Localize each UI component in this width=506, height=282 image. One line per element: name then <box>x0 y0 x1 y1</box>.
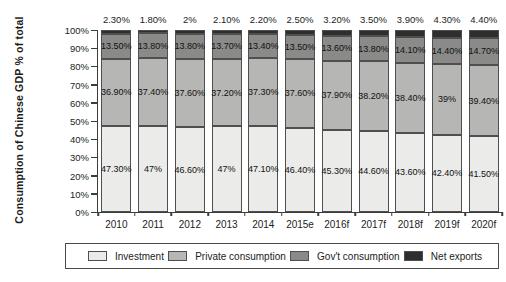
x-axis-label: 2012 <box>179 219 201 230</box>
bar-segment-private-consumption: 37.60% <box>175 59 205 127</box>
bar-segment-investment: 43.60% <box>395 133 425 212</box>
bar-segment-gov-t-consumption: 13.50% <box>285 35 315 60</box>
x-tick <box>354 212 356 216</box>
segment-label: 13.80% <box>138 41 169 51</box>
bar-segment-net-exports <box>359 30 389 36</box>
bar: 47%37.40%13.80%1.80% <box>138 30 168 212</box>
y-tick <box>91 66 97 68</box>
y-tick <box>91 84 97 86</box>
segment-label: 37.30% <box>248 87 279 97</box>
bar-segment-investment: 42.40% <box>432 135 462 212</box>
x-axis-label: 2010 <box>105 219 127 230</box>
segment-label: 37.90% <box>322 90 353 100</box>
y-tick <box>91 139 97 141</box>
net-exports-label: 2.10% <box>213 14 240 25</box>
segment-label: 14.70% <box>468 46 499 56</box>
bar-segment-private-consumption: 37.30% <box>248 58 278 126</box>
y-tick-label: 80% <box>70 61 89 72</box>
bar-segment-private-consumption: 39% <box>432 64 462 135</box>
y-tick-label: 40% <box>70 134 89 145</box>
x-tick <box>428 212 430 216</box>
bar-segment-private-consumption: 39.40% <box>469 65 499 137</box>
x-tick <box>97 212 99 216</box>
segment-label: 39.40% <box>468 96 499 106</box>
bar: 45.30%37.90%13.60%3.20% <box>322 30 352 212</box>
segment-label: 47.10% <box>248 164 279 174</box>
legend-swatch <box>88 251 107 261</box>
segment-label: 41.50% <box>468 169 499 179</box>
bar-segment-investment: 47.10% <box>248 126 278 212</box>
bar-segment-private-consumption: 37.90% <box>322 61 352 130</box>
segment-label: 13.70% <box>211 41 242 51</box>
legend-item: Gov't consumption <box>290 251 400 262</box>
bar: 43.60%38.40%14.10%3.90% <box>395 30 425 212</box>
bar-segment-investment: 41.50% <box>469 136 499 212</box>
segment-label: 42.40% <box>432 168 463 178</box>
bar-segment-private-consumption: 37.20% <box>212 59 242 127</box>
x-axis-label: 2014 <box>252 219 274 230</box>
legend: InvestmentPrivate consumptionGov't consu… <box>65 243 499 269</box>
x-tick <box>134 212 136 216</box>
bar: 42.40%39%14.40%4.30% <box>432 30 462 212</box>
segment-label: 36.90% <box>101 87 132 97</box>
net-exports-label: 3.90% <box>397 14 424 25</box>
bar-segment-investment: 45.30% <box>322 130 352 212</box>
bar-segment-investment: 47.30% <box>101 126 131 212</box>
bar-segment-gov-t-consumption: 14.10% <box>395 37 425 63</box>
legend-item: Investment <box>88 251 164 262</box>
segment-label: 45.30% <box>322 166 353 176</box>
bar: 46.40%37.60%13.50%2.50% <box>285 30 315 212</box>
bar-segment-net-exports <box>138 30 168 33</box>
segment-label: 13.60% <box>322 43 353 53</box>
bar-segment-investment: 47% <box>212 126 242 212</box>
bar-segment-private-consumption: 36.90% <box>101 59 131 126</box>
segment-label: 46.40% <box>285 165 316 175</box>
bar-slot: 44.60%38.20%13.80%3.50%2017f <box>355 30 392 212</box>
y-tick <box>91 121 97 123</box>
y-tick-label: 30% <box>70 152 89 163</box>
legend-item: Private consumption <box>168 251 286 262</box>
segment-label: 47% <box>144 164 162 174</box>
bar-segment-gov-t-consumption: 14.70% <box>469 38 499 65</box>
y-tick-label: 100% <box>65 25 89 36</box>
y-tick <box>91 212 97 214</box>
y-tick <box>91 30 97 32</box>
legend-label: Investment <box>115 251 164 262</box>
bar-slot: 45.30%37.90%13.60%3.20%2016f <box>318 30 355 212</box>
segment-label: 13.40% <box>248 41 279 51</box>
bar-segment-net-exports <box>101 30 131 34</box>
bar-slot: 41.50%39.40%14.70%4.40%2020f <box>465 30 502 212</box>
y-tick <box>91 157 97 159</box>
x-tick <box>171 212 173 216</box>
segment-label: 44.60% <box>358 166 389 176</box>
bar-segment-gov-t-consumption: 13.80% <box>359 36 389 61</box>
legend-swatch <box>290 251 309 261</box>
bar: 47.10%37.30%13.40%2.20% <box>248 30 278 212</box>
bar-segment-net-exports <box>322 30 352 36</box>
bar-segment-net-exports <box>469 30 499 38</box>
bar-segment-net-exports <box>285 30 315 35</box>
segment-label: 37.60% <box>285 88 316 98</box>
net-exports-label: 2.50% <box>287 14 314 25</box>
net-exports-label: 2.20% <box>250 14 277 25</box>
bar-segment-gov-t-consumption: 13.80% <box>138 33 168 58</box>
segment-label: 37.40% <box>138 87 169 97</box>
y-tick <box>91 193 97 195</box>
y-tick-label: 90% <box>70 43 89 54</box>
segment-label: 37.20% <box>211 88 242 98</box>
y-tick <box>91 102 97 104</box>
segment-label: 14.40% <box>432 46 463 56</box>
legend-label: Gov't consumption <box>317 251 400 262</box>
bar-segment-gov-t-consumption: 13.70% <box>212 34 242 59</box>
y-tick <box>91 48 97 50</box>
y-tick-label: 0% <box>75 207 89 218</box>
net-exports-label: 4.30% <box>434 14 461 25</box>
plot-area: 47.30%36.90%13.50%2.30%201047%37.40%13.8… <box>97 30 502 213</box>
bar-segment-net-exports <box>212 30 242 34</box>
bar-slot: 43.60%38.40%14.10%3.90%2018f <box>392 30 429 212</box>
segment-label: 14.10% <box>395 45 426 55</box>
x-tick <box>501 212 503 216</box>
segment-label: 46.60% <box>175 165 206 175</box>
y-tick-label: 20% <box>70 170 89 181</box>
segment-label: 39% <box>438 94 456 104</box>
